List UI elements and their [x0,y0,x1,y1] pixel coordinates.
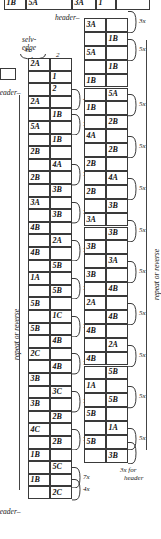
right-grid-cell-a: 1B [84,74,106,88]
left-grid-cell-a [28,411,50,424]
right-grid-cell-b: 2B [106,115,128,129]
right-grid-cell-a: 5A [84,46,106,60]
right-grid-cell-b: 2A [106,338,128,352]
right-grid-cell-b [106,324,128,338]
left-grid-cell-b [50,423,72,436]
right-repeat-bump [128,94,137,116]
left-grid-cell-b [50,197,72,210]
right-grid-cell-a: 1A [84,379,106,393]
right-repeat-bump [128,220,137,242]
right-grid-cell-b: 3B [106,449,128,463]
right-grid-cell-a [84,227,106,241]
left-grid-cell-b: 2B [50,436,72,449]
right-grid-cell-a [84,310,106,324]
left-grid-cell-a [28,285,50,298]
left-grid-cell-b [50,58,72,71]
right-grid-cell-b [106,101,128,115]
top-strip-cell [116,0,150,10]
right-repeat-count: 5x [139,184,146,192]
left-grid-cell-b [50,247,72,260]
footer-note-line2: header [124,475,143,482]
left-grid-cell-b: 2A [50,234,72,247]
left-grid-cell-a: 5B [28,323,50,336]
repeat-label-right: repeat or reverse [152,249,161,300]
left-grid-cell-b [50,373,72,386]
left-grid-cell-b: 3C [50,386,72,399]
right-grid-cell-a: 5B [84,407,106,421]
left-grid-cell-b: 2B [50,411,72,424]
left-grid-cell-b: 5C [50,461,72,474]
left-grid-cell-b: 2 [50,83,72,96]
left-grid-cell-a [28,159,50,172]
right-repeat-count: 5x [139,142,146,150]
right-grid-cell-b [106,18,128,32]
right-grid-cell-b: 4B [106,282,128,296]
left-grid-cell-a: 3B [28,398,50,411]
right-grid-cell-a: 4B [84,324,106,338]
top-strip-cell: 1 [96,0,116,10]
header-label-center: header– [55,14,80,22]
left-grid-cell-b [50,222,72,235]
left-grid-cell-b [50,171,72,184]
right-grid-cell-a [84,421,106,435]
right-grid-cell-b: 4A [106,171,128,185]
right-grid-cell-a: 3B [84,240,106,254]
left-grid-cell-a: 1A [28,272,50,285]
left-grid-cell-a [28,184,50,197]
right-repeat-count: 5x [139,309,146,317]
right-grid-cell-b [106,435,128,449]
left-repeat-bump [72,391,81,412]
left-grid-cell-b: 3B [50,209,72,222]
left-grid-cell-b: 5B [50,285,72,298]
right-grid-cell-a: 4A [84,129,106,143]
right-grid-cell-b: 1B [106,60,128,74]
top-strip-cell: 1B [4,0,26,10]
right-grid-cell-b: 4B [106,310,128,324]
left-grid-cell-a [28,461,50,474]
left-grid-cell-b: 5B [50,260,72,273]
left-grid-cell-a: 2A [28,96,50,109]
right-grid-cell-b [106,407,128,421]
right-grid-cell-b: 5A [106,88,128,102]
right-repeat-bump [128,136,137,158]
left-grid-cell-a [28,486,50,499]
top-strip-cell: 5A [26,0,72,10]
right-grid-cell-b [106,379,128,393]
left-repeat-bump [72,429,81,450]
right-grid-cell-b: 5B [106,366,128,380]
left-grid-cell-b: 4B [50,335,72,348]
left-grid-cell-a [28,234,50,247]
left-grid-cell-a [28,83,50,96]
repeat-bracket-left [19,95,20,490]
left-grid-cell-a [28,436,50,449]
left-repeat-bump [72,240,81,261]
right-grid-cell-b [106,296,128,310]
right-grid-cell-a [84,32,106,46]
left-grid-cell-b: 1 [50,71,72,84]
left-grid-cell-b: 3B [50,184,72,197]
left-grid-cell-a: 3A [28,197,50,210]
right-grid-cell-a: 3A [84,18,106,32]
left-grid-cell-b [50,348,72,361]
left-grid-cell-b [50,297,72,310]
left-grid-cell-a: 4B [28,222,50,235]
right-repeat-count: 5x [139,434,146,442]
header-label-bottom: header– [0,508,21,516]
left-grid-cell-a: 1B [28,449,50,462]
left-grid-cell-b [50,272,72,285]
left-grid-cell-a [28,260,50,273]
left-repeat-bump [72,202,81,223]
left-grid-cell-a: 5A [28,121,50,134]
right-repeat-count: 3x [139,17,146,25]
right-grid-cell-a: 2B [84,185,106,199]
left-grid-cell-b [50,146,72,159]
right-repeat-count: 5x [139,226,146,234]
left-repeat-bump [72,479,81,500]
right-grid-cell-a: 5B [84,435,106,449]
right-grid-cell-b: 1A [106,421,128,435]
right-grid-cell-b [106,352,128,366]
right-grid-cell-b: 5B [106,393,128,407]
right-repeat-bump [128,303,137,325]
left-grid-cell-b [50,398,72,411]
left-repeat-bump [72,278,81,299]
